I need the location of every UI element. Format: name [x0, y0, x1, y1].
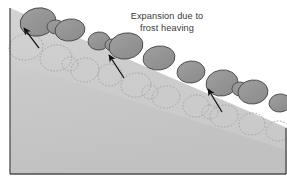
- caption-line-1: Expansion due to: [131, 11, 204, 21]
- frost-heaving-diagram: Expansion due to frost heaving: [0, 0, 287, 180]
- diagram-canvas: Expansion due to frost heaving: [0, 0, 287, 180]
- caption-line-2: frost heaving: [140, 23, 194, 33]
